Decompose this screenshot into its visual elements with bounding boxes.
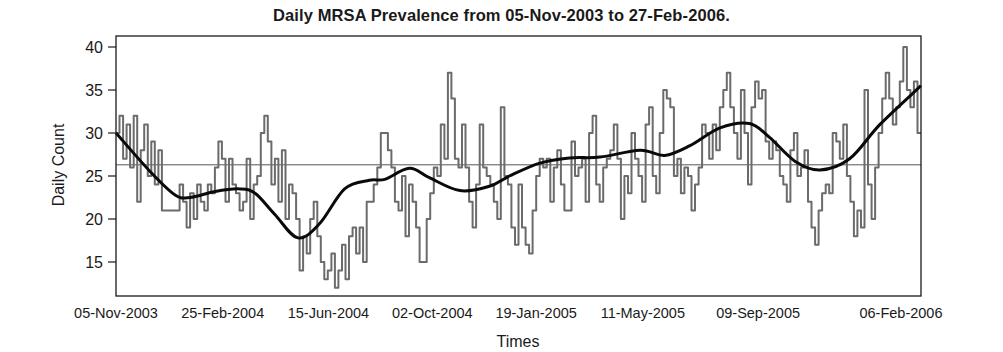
daily-count-series	[116, 47, 921, 288]
y-axis-label: Daily Count	[50, 123, 67, 206]
y-tick-label: 20	[85, 211, 103, 228]
x-tick-label: 15-Jun-2004	[288, 305, 369, 321]
x-axis: 05-Nov-200325-Feb-200415-Jun-200402-Oct-…	[74, 305, 942, 321]
chart-canvas: 152025303540 05-Nov-200325-Feb-200415-Ju…	[0, 0, 1003, 352]
y-tick-label: 40	[85, 39, 103, 56]
y-tick-label: 30	[85, 125, 103, 142]
x-tick-label: 05-Nov-2003	[74, 305, 158, 321]
x-axis-label: Times	[497, 333, 540, 350]
y-tick-label: 35	[85, 82, 103, 99]
series-layer	[116, 47, 921, 288]
y-tick-label: 15	[85, 254, 103, 271]
x-tick-label: 11-May-2005	[601, 305, 685, 321]
x-tick-label: 02-Oct-2004	[392, 305, 473, 321]
x-tick-label: 19-Jan-2005	[495, 305, 576, 321]
x-tick-label: 25-Feb-2004	[181, 305, 264, 321]
y-tick-label: 25	[85, 168, 103, 185]
x-tick-label: 09-Sep-2005	[716, 305, 800, 321]
y-axis: 152025303540	[85, 39, 116, 271]
x-tick-label: 06-Feb-2006	[859, 305, 942, 321]
